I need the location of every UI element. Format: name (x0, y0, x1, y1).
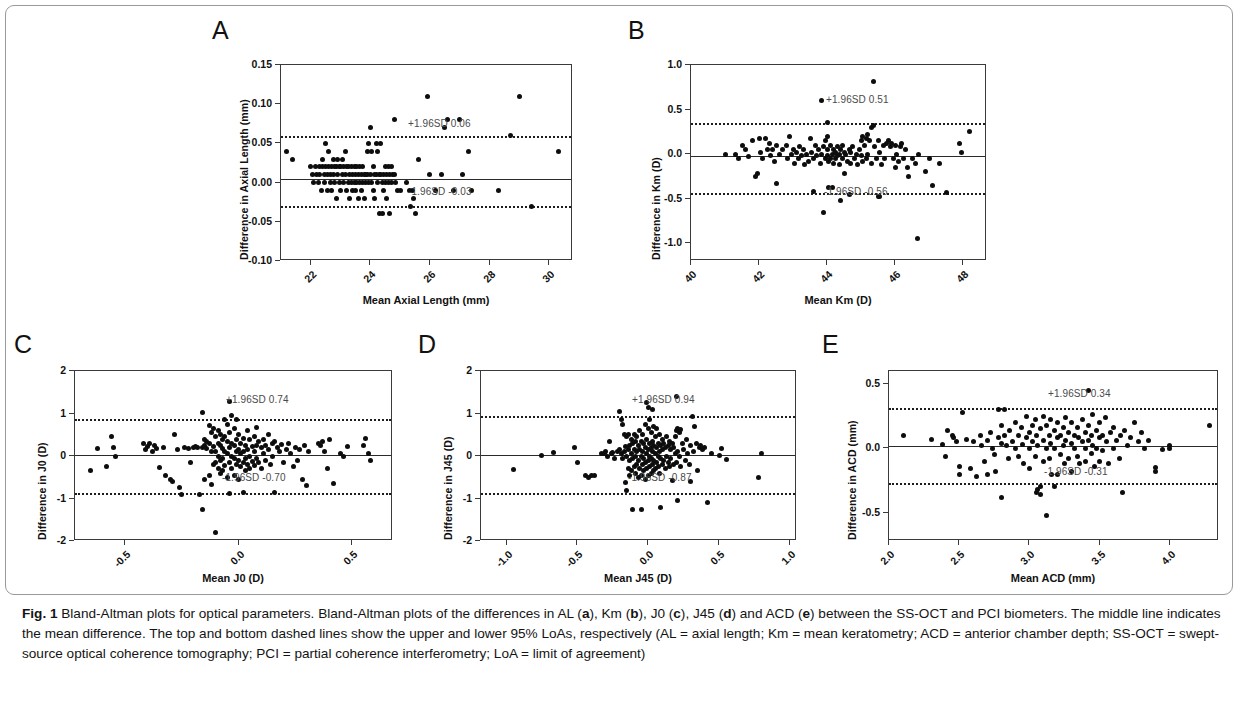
caption-part-1: Bland-Altman plots for optical parameter… (58, 606, 582, 621)
data-point (982, 459, 987, 464)
data-point (1030, 439, 1035, 444)
data-point (1007, 428, 1012, 433)
data-point (780, 147, 785, 152)
data-point (874, 156, 879, 161)
lower-loa-line-d (481, 493, 795, 495)
y-axis-label-c: Difference in J0 (D) (36, 442, 48, 540)
data-point (996, 435, 1001, 440)
data-point (1108, 430, 1113, 435)
data-point (1052, 446, 1057, 451)
data-point (368, 458, 373, 463)
data-point (95, 446, 100, 451)
ytick-mark-a-5 (275, 260, 280, 261)
data-point (1094, 446, 1099, 451)
data-point (404, 180, 409, 185)
data-point (848, 161, 853, 166)
data-point (416, 157, 421, 162)
data-point (366, 141, 371, 146)
data-point (381, 188, 386, 193)
data-point (1066, 430, 1071, 435)
data-point (427, 172, 432, 177)
data-point (539, 453, 544, 458)
data-point (944, 190, 949, 195)
data-point (1207, 423, 1212, 428)
xtick-mark-b-0 (690, 260, 691, 265)
caption-part-5: ) and ACD ( (731, 606, 802, 621)
xtick-mark-c-2 (351, 540, 352, 545)
lower-loa-label-a: -1.96SD -0.03 (408, 186, 472, 197)
ytick-label-d-0: 2 (442, 364, 472, 376)
data-point (207, 473, 212, 478)
data-point (999, 423, 1004, 428)
data-point (957, 472, 962, 477)
lower-loa-label-c: -1.96SD -0.70 (222, 472, 286, 483)
data-point (460, 172, 465, 177)
upper-loa-line-c (75, 419, 391, 421)
data-point (957, 464, 962, 469)
data-point (225, 422, 230, 427)
data-point (272, 439, 277, 444)
upper-loa-line-b (691, 123, 985, 125)
data-point (334, 196, 339, 201)
ytick-mark-c-0 (69, 370, 74, 371)
data-point (620, 422, 625, 427)
caption-bold-b: b (630, 606, 638, 621)
data-point (227, 460, 232, 465)
x-axis-label-b: Mean Km (D) (690, 294, 986, 306)
data-point (1002, 433, 1007, 438)
data-point (281, 460, 286, 465)
data-point (758, 150, 763, 155)
lower-loa-label-b: -1.96SD -0.56 (824, 186, 888, 197)
data-point (1117, 456, 1122, 461)
data-point (893, 143, 898, 148)
data-point (392, 172, 397, 177)
data-point (968, 466, 973, 471)
lower-loa-label-e: -1.96SD -0.31 (1044, 466, 1108, 477)
data-point (736, 156, 741, 161)
data-point (1080, 439, 1085, 444)
data-point (295, 458, 300, 463)
data-point (286, 441, 291, 446)
data-point (1167, 446, 1172, 451)
data-point (1058, 433, 1063, 438)
data-point (592, 473, 597, 478)
xtick-mark-d-4 (789, 540, 790, 545)
xtick-mark-c-1 (238, 540, 239, 545)
x-axis-label-e: Mean ACD (mm) (888, 572, 1218, 584)
data-point (366, 451, 371, 456)
data-point (857, 147, 862, 152)
data-point (1016, 433, 1021, 438)
data-point (864, 156, 869, 161)
data-point (256, 460, 261, 465)
xtick-mark-a-4 (548, 260, 549, 265)
data-point (691, 449, 696, 454)
data-point (408, 204, 413, 209)
xtick-mark-b-1 (758, 260, 759, 265)
data-point (684, 437, 689, 442)
ytick-mark-a-3 (275, 182, 280, 183)
data-point (1122, 428, 1127, 433)
data-point (990, 446, 995, 451)
panel-a: A 0.150.100.050.00-0.05-0.102224262830Di… (212, 18, 612, 318)
ytick-mark-d-3 (475, 498, 480, 499)
data-point (1044, 513, 1049, 518)
data-point (675, 498, 680, 503)
data-point (1030, 423, 1035, 428)
data-point (347, 196, 352, 201)
upper-loa-label-d: +1.96SD 0.94 (632, 394, 695, 405)
data-point (1094, 428, 1099, 433)
lower-loa-label-d: -1.96SD -0.87 (628, 472, 692, 483)
data-point (854, 152, 859, 157)
upper-loa-label-e: +1.96SD 0.34 (1048, 388, 1111, 399)
data-point (784, 143, 789, 148)
data-point (1142, 446, 1147, 451)
x-axis-label-c: Mean J0 (D) (74, 572, 392, 584)
upper-loa-line-e (889, 408, 1217, 410)
ytick-mark-d-0 (475, 370, 480, 371)
data-point (837, 162, 842, 167)
data-point (634, 434, 639, 439)
data-point (692, 424, 697, 429)
data-point (398, 188, 403, 193)
data-point (940, 442, 945, 447)
data-point (1044, 423, 1049, 428)
